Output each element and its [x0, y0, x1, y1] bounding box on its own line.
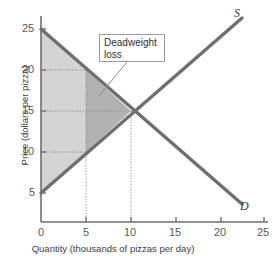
callout-line-1: Deadweight: [104, 37, 164, 49]
y-tick-label-5: 5: [29, 186, 35, 198]
x-tick-label-5: 5: [83, 226, 89, 238]
x-tick-label-20: 20: [214, 226, 226, 238]
deadweight-loss-callout: Deadweight loss: [99, 34, 165, 62]
x-tick-label-25: 25: [257, 226, 269, 238]
demand-curve-label: D: [240, 199, 249, 214]
x-tick-label-15: 15: [169, 226, 181, 238]
y-tick-label-25: 25: [22, 22, 34, 34]
y-axis-title: Price (dollars per pizza): [19, 46, 30, 186]
x-tick-label-10: 10: [124, 226, 136, 238]
x-tick-label-0: 0: [38, 226, 44, 238]
supply-curve-label: S: [234, 6, 240, 21]
x-axis-title: Quantity (thousands of pizzas per day): [32, 243, 195, 254]
callout-line-2: loss: [104, 49, 164, 61]
deadweight-loss-chart: 25 20 15 10 5 0 5 10 15 20 25 Quantity (…: [0, 0, 275, 256]
